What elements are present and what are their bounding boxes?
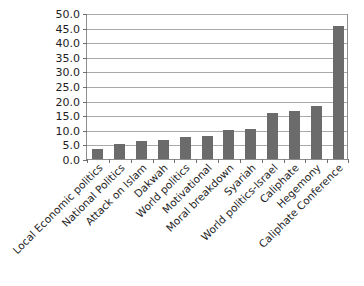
x-axis-tick-label: Caliphate bbox=[258, 162, 301, 205]
bar bbox=[311, 106, 322, 159]
y-axis-tick-label: 15.0 bbox=[56, 111, 81, 122]
bar bbox=[202, 136, 213, 159]
x-axis-tick-label: Hegemony bbox=[275, 162, 323, 210]
x-axis-tick-label: Caliphate Conference bbox=[257, 162, 345, 250]
y-axis-tick-label: 5.0 bbox=[63, 140, 81, 151]
x-axis-tick bbox=[87, 159, 88, 163]
bar bbox=[223, 130, 234, 159]
x-axis-tick bbox=[348, 159, 349, 163]
bar bbox=[114, 144, 125, 159]
x-axis-tick bbox=[131, 159, 132, 163]
y-axis-tick bbox=[83, 160, 87, 161]
x-axis-tick-label: Syariah bbox=[222, 162, 258, 198]
cut-off-title bbox=[34, 0, 234, 2]
y-axis-tick bbox=[83, 131, 87, 132]
bar bbox=[180, 137, 191, 159]
x-axis-tick bbox=[305, 159, 306, 163]
y-axis-tick bbox=[83, 43, 87, 44]
y-axis-tick-label: 0.0 bbox=[63, 155, 81, 166]
x-axis-tick-label: World politics bbox=[134, 162, 192, 220]
plot-area bbox=[86, 14, 348, 160]
bar-series bbox=[87, 15, 347, 159]
bar bbox=[92, 149, 103, 159]
y-axis-tick-label: 10.0 bbox=[56, 125, 81, 136]
bar bbox=[158, 140, 169, 159]
x-axis-tick bbox=[218, 159, 219, 163]
y-axis-tick bbox=[83, 29, 87, 30]
x-axis-tick bbox=[327, 159, 328, 163]
x-axis-tick-label: Moral breakdown bbox=[164, 162, 236, 234]
y-axis-labels: 0.05.010.015.020.025.030.035.040.045.050… bbox=[34, 8, 80, 160]
y-axis-tick-label: 50.0 bbox=[56, 9, 81, 20]
y-axis-tick-label: 45.0 bbox=[56, 23, 81, 34]
x-axis-tick bbox=[284, 159, 285, 163]
x-axis-tick bbox=[174, 159, 175, 163]
x-axis-tick-label: Motivational bbox=[160, 162, 213, 215]
y-axis-tick-label: 40.0 bbox=[56, 38, 81, 49]
y-axis-tick bbox=[83, 87, 87, 88]
x-axis-tick bbox=[109, 159, 110, 163]
bar bbox=[333, 26, 344, 159]
x-axis-tick-label: Local Economic politics bbox=[11, 162, 105, 256]
bar-chart: 0.05.010.015.020.025.030.035.040.045.050… bbox=[0, 0, 364, 286]
y-axis-tick bbox=[83, 145, 87, 146]
y-axis-tick-label: 25.0 bbox=[56, 82, 81, 93]
x-axis-tick-label: National Politics bbox=[60, 162, 127, 229]
y-axis-tick bbox=[83, 58, 87, 59]
y-axis-tick bbox=[83, 116, 87, 117]
x-axis-tick bbox=[262, 159, 263, 163]
bar bbox=[136, 141, 147, 159]
y-axis-tick-label: 35.0 bbox=[56, 52, 81, 63]
x-axis-tick-label: Attack on Islam bbox=[83, 162, 148, 227]
x-axis-tick-label: World politics-Israel bbox=[199, 162, 280, 243]
y-axis-tick bbox=[83, 72, 87, 73]
x-axis-tick bbox=[153, 159, 154, 163]
bar bbox=[267, 113, 278, 159]
y-axis-tick-label: 30.0 bbox=[56, 67, 81, 78]
bar bbox=[245, 129, 256, 159]
y-axis-tick bbox=[83, 14, 87, 15]
x-axis-tick-label: Dakwah bbox=[133, 162, 171, 200]
x-axis-tick bbox=[196, 159, 197, 163]
y-axis-tick bbox=[83, 102, 87, 103]
y-axis-tick-label: 20.0 bbox=[56, 96, 81, 107]
bar bbox=[289, 111, 300, 159]
x-axis-tick bbox=[240, 159, 241, 163]
